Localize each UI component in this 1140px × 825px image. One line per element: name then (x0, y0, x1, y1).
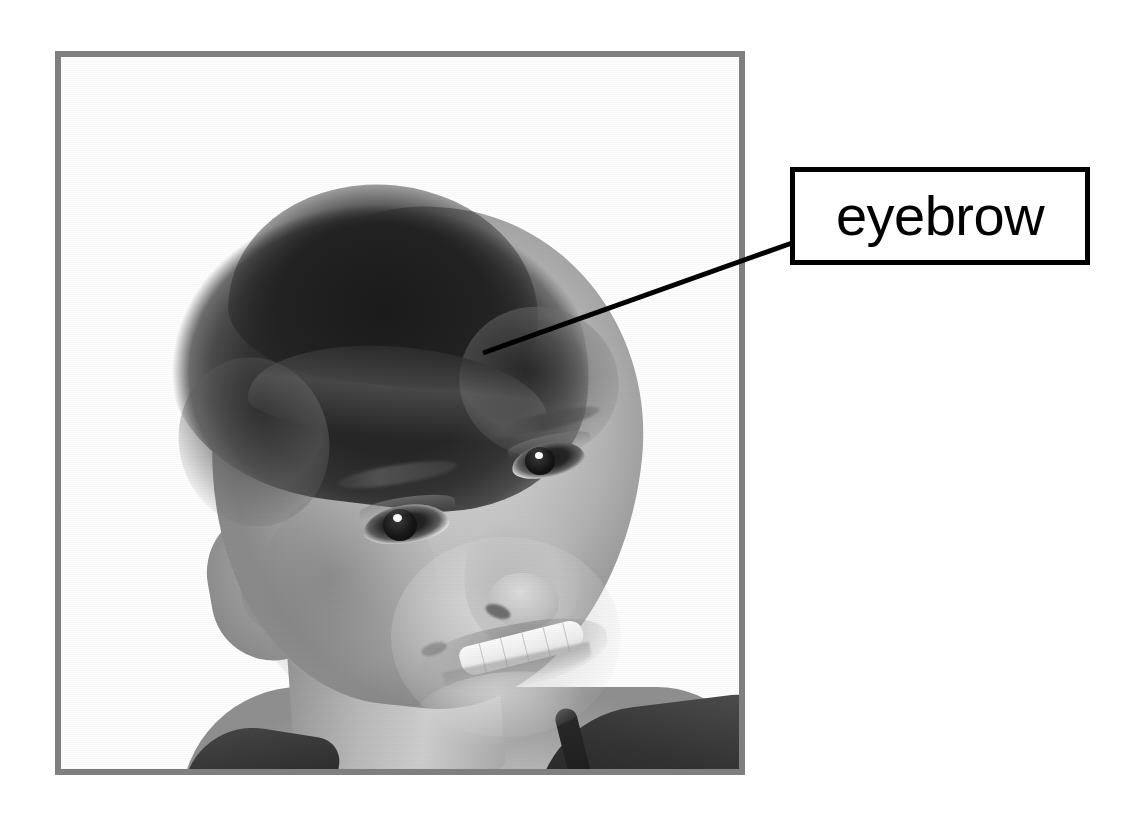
photo-frame (55, 51, 745, 775)
callout-label-text: eyebrow (836, 188, 1044, 244)
portrait-photo (61, 57, 739, 769)
callout-label-box[interactable]: eyebrow (790, 167, 1090, 265)
flashcard-stage: eyebrow (0, 0, 1140, 825)
